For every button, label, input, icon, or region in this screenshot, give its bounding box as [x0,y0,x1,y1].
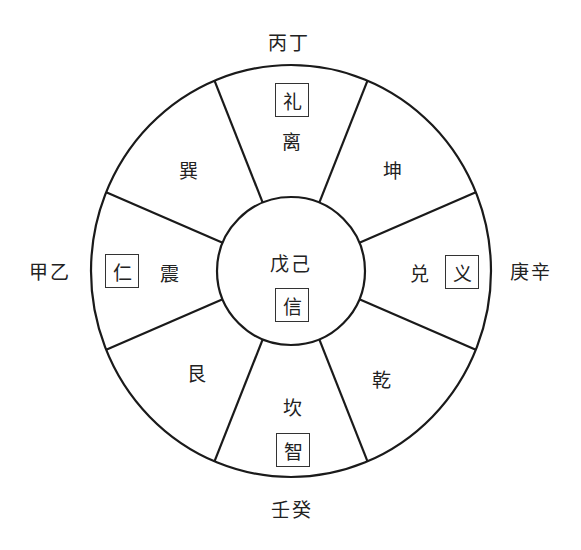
sector-bottom-virtue-box: 智 [276,433,310,467]
divider-3 [359,299,475,350]
sector-top-right-trigram: 坤 [383,162,404,181]
divider-1 [319,81,367,203]
divider-2 [359,192,475,243]
outer-label-right: 庚辛 [510,263,552,282]
sector-right-virtue-box: 义 [445,255,479,289]
center-virtue-box: 信 [275,288,309,322]
divider-4 [319,339,367,461]
center-stems-label: 戊己 [270,255,312,274]
divider-6 [106,299,222,350]
divider-8 [215,81,263,203]
sector-bottom-left-trigram: 艮 [187,365,208,384]
divider-5 [215,339,263,461]
sector-top-trigram: 离 [282,133,303,152]
outer-label-top: 丙丁 [268,34,310,53]
outer-label-left: 甲乙 [29,263,71,282]
divider-7 [106,192,222,243]
outer-label-bottom: 壬癸 [271,501,313,520]
sector-top-virtue-box: 礼 [275,83,309,117]
sector-left-trigram: 震 [160,265,181,284]
sector-right-trigram: 兑 [410,265,431,284]
sector-top-left-trigram: 巽 [179,162,200,181]
sector-bottom-trigram: 坎 [283,399,304,418]
sector-left-virtue-box: 仁 [105,254,139,288]
sector-bottom-right-trigram: 乾 [372,371,393,390]
